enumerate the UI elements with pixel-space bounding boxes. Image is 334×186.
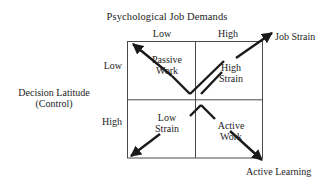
quadrant-label-active-work: Active Work: [200, 120, 262, 142]
quadrant-low-strain-line1: Low: [158, 112, 176, 123]
job-strain-arrow-center-left: [172, 76, 190, 94]
column-header-low: Low: [132, 28, 192, 39]
quadrant-label-passive-work: Passive Work: [136, 54, 198, 76]
row-label-low: Low: [82, 60, 122, 71]
quadrant-high-strain-line1: High: [221, 62, 241, 73]
quadrant-passive-work-line2: Work: [136, 65, 198, 76]
karasek-demand-control-diagram: Psychological Job Demands Low High Decis…: [0, 0, 334, 186]
quadrant-active-work-line1: Active: [218, 120, 245, 131]
y-axis-title: Decision Latitude (Control): [2, 87, 106, 109]
active-learning-arrow-center-right: [201, 105, 215, 119]
quadrant-high-strain-line2: Strain: [200, 73, 262, 84]
active-learning-arrow-lower-left-segment: [131, 134, 160, 156]
diagonal-label-active-learning: Active Learning: [246, 166, 311, 177]
y-axis-title-line1: Decision Latitude: [18, 87, 89, 98]
quadrant-low-strain-line2: Strain: [136, 123, 198, 134]
quadrant-label-high-strain: High Strain: [200, 62, 262, 84]
quadrant-passive-work-line1: Passive: [152, 54, 182, 65]
row-label-high: High: [82, 116, 122, 127]
quadrant-label-low-strain: Low Strain: [136, 112, 198, 134]
diagonal-label-job-strain: Job Strain: [275, 31, 315, 42]
page-title: Psychological Job Demands: [0, 11, 334, 23]
y-axis-title-line2: (Control): [2, 98, 106, 109]
quadrant-active-work-line2: Work: [200, 131, 262, 142]
column-header-high: High: [198, 28, 258, 39]
